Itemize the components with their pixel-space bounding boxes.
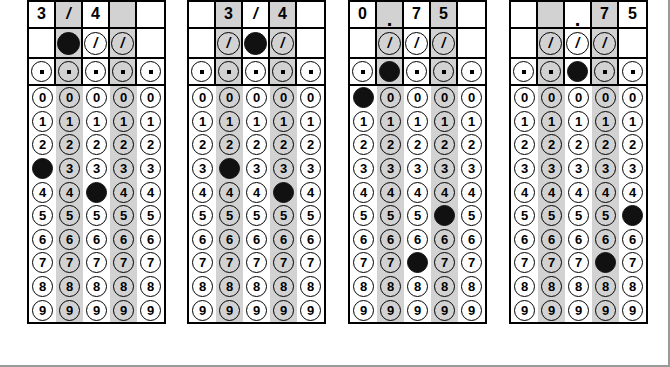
digit-cell[interactable]: 9 — [619, 298, 646, 322]
written-answer-box[interactable]: 4 — [270, 2, 297, 27]
digit-cell[interactable]: 4 — [189, 180, 216, 204]
digit-bubble[interactable]: 7 — [140, 252, 161, 273]
digit-cell[interactable]: 1 — [350, 110, 377, 134]
digit-bubble[interactable]: 9 — [300, 300, 321, 321]
digit-bubble[interactable]: 5 — [514, 205, 535, 226]
digit-cell[interactable]: 2 — [189, 133, 216, 157]
digit-cell[interactable]: 2 — [243, 133, 270, 157]
digit-cell[interactable]: 7 — [29, 251, 56, 275]
digit-cell[interactable]: 6 — [29, 228, 56, 252]
digit-bubble[interactable]: 1 — [380, 111, 401, 132]
digit-cell[interactable]: 3 — [189, 157, 216, 181]
digit-cell[interactable]: 3 — [83, 157, 110, 181]
digit-cell[interactable]: 4 — [56, 180, 83, 204]
digit-cell[interactable]: 7 — [431, 251, 458, 275]
digit-cell[interactable]: 0 — [619, 86, 646, 110]
digit-bubble[interactable]: 3 — [380, 158, 401, 179]
digit-cell[interactable]: 2 — [565, 133, 592, 157]
digit-bubble[interactable]: 4 — [32, 182, 53, 203]
written-answer-box[interactable] — [538, 2, 565, 27]
digit-bubble[interactable]: 1 — [32, 111, 53, 132]
decimal-point-cell[interactable] — [619, 59, 646, 84]
digit-bubble[interactable]: 6 — [273, 229, 294, 250]
decimal-point-cell[interactable] — [270, 59, 297, 84]
fraction-bar-cell[interactable]: / — [270, 29, 297, 57]
digit-bubble[interactable]: 2 — [273, 134, 294, 155]
digit-cell[interactable]: 6 — [538, 228, 565, 252]
decimal-point-cell[interactable] — [83, 59, 110, 84]
digit-cell[interactable]: 4 — [431, 180, 458, 204]
written-answer-box[interactable]: . — [565, 2, 592, 27]
digit-bubble[interactable]: 4 — [192, 182, 213, 203]
digit-cell[interactable]: 6 — [619, 228, 646, 252]
digit-cell[interactable]: 3 — [431, 157, 458, 181]
digit-bubble[interactable]: 2 — [59, 134, 80, 155]
digit-bubble[interactable]: 2 — [353, 134, 374, 155]
digit-bubble[interactable]: 0 — [622, 87, 643, 108]
digit-cell[interactable]: 1 — [243, 110, 270, 134]
digit-bubble[interactable]: 3 — [86, 158, 107, 179]
digit-bubble[interactable]: 6 — [380, 229, 401, 250]
digit-bubble[interactable]: 1 — [595, 111, 616, 132]
decimal-point-cell[interactable] — [377, 59, 404, 84]
digit-bubble[interactable]: 9 — [59, 300, 80, 321]
digit-bubble[interactable]: 8 — [380, 276, 401, 297]
digit-cell[interactable]: 7 — [565, 251, 592, 275]
decimal-point-cell[interactable] — [431, 59, 458, 84]
digit-cell[interactable]: 7 — [56, 251, 83, 275]
digit-cell[interactable]: 6 — [83, 228, 110, 252]
decimal-point-cell[interactable] — [350, 59, 377, 84]
digit-bubble[interactable]: 3 — [541, 158, 562, 179]
digit-bubble[interactable]: 0 — [273, 87, 294, 108]
digit-cell[interactable]: 9 — [538, 298, 565, 322]
digit-cell[interactable]: 7 — [377, 251, 404, 275]
digit-cell[interactable]: 1 — [619, 110, 646, 134]
decimal-point-bubble[interactable] — [272, 61, 293, 82]
digit-bubble[interactable]: 8 — [300, 276, 321, 297]
digit-bubble[interactable]: 5 — [86, 205, 107, 226]
digit-bubble[interactable]: 3 — [59, 158, 80, 179]
digit-cell[interactable]: 3 — [404, 157, 431, 181]
digit-bubble[interactable]: 3 — [300, 158, 321, 179]
digit-bubble[interactable]: 9 — [140, 300, 161, 321]
digit-bubble[interactable]: 7 — [380, 252, 401, 273]
digit-bubble[interactable]: 4 — [246, 182, 267, 203]
fraction-bar-cell[interactable]: / — [592, 29, 619, 57]
digit-cell[interactable]: 5 — [83, 204, 110, 228]
digit-bubble[interactable]: 8 — [595, 276, 616, 297]
fraction-bar-bubble[interactable]: / — [539, 32, 562, 55]
digit-cell[interactable]: 8 — [458, 275, 485, 299]
digit-cell[interactable]: 9 — [404, 298, 431, 322]
digit-bubble-filled[interactable]: 7 — [595, 252, 616, 273]
digit-cell[interactable]: 9 — [511, 298, 538, 322]
digit-cell[interactable]: 4 — [458, 180, 485, 204]
digit-bubble[interactable]: 4 — [595, 182, 616, 203]
digit-cell[interactable]: 3 — [511, 157, 538, 181]
digit-bubble[interactable]: 6 — [568, 229, 589, 250]
decimal-point-cell[interactable] — [189, 59, 216, 84]
digit-cell[interactable]: 3 — [137, 157, 164, 181]
digit-bubble[interactable]: 3 — [461, 158, 482, 179]
digit-bubble[interactable]: 6 — [514, 229, 535, 250]
digit-bubble[interactable]: 2 — [32, 134, 53, 155]
digit-bubble[interactable]: 6 — [300, 229, 321, 250]
digit-cell[interactable]: 8 — [189, 275, 216, 299]
digit-bubble[interactable]: 8 — [86, 276, 107, 297]
digit-bubble[interactable]: 4 — [300, 182, 321, 203]
digit-bubble[interactable]: 3 — [434, 158, 455, 179]
digit-bubble[interactable]: 5 — [246, 205, 267, 226]
digit-bubble[interactable]: 4 — [407, 182, 428, 203]
written-answer-box[interactable]: / — [243, 2, 270, 27]
digit-bubble[interactable]: 5 — [219, 205, 240, 226]
digit-cell[interactable]: 4 — [377, 180, 404, 204]
digit-bubble[interactable]: 2 — [541, 134, 562, 155]
digit-cell[interactable]: 0 — [110, 86, 137, 110]
digit-bubble-filled[interactable]: 7 — [407, 252, 428, 273]
digit-bubble[interactable]: 1 — [246, 111, 267, 132]
digit-bubble[interactable]: 6 — [192, 229, 213, 250]
digit-bubble[interactable]: 0 — [32, 87, 53, 108]
digit-cell[interactable]: 7 — [297, 251, 324, 275]
fraction-bar-cell[interactable]: / — [243, 29, 270, 57]
digit-cell[interactable]: 8 — [619, 275, 646, 299]
digit-cell[interactable]: 1 — [592, 110, 619, 134]
